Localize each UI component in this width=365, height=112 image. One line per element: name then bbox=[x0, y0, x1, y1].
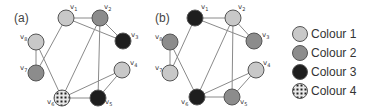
vertex-label-v7: v7 bbox=[20, 64, 27, 73]
graph-a: (a)v1v2v3v4v5v6v7v8 bbox=[14, 3, 138, 107]
vertex-label-v6: v6 bbox=[181, 98, 188, 107]
vertex-v4 bbox=[248, 62, 264, 78]
vertex-label-v3: v3 bbox=[262, 31, 269, 40]
edge-v2-v6 bbox=[197, 18, 233, 97]
vertex-v6 bbox=[189, 89, 205, 105]
vertex-label-v7: v7 bbox=[155, 64, 162, 73]
vertex-v5 bbox=[224, 89, 240, 105]
vertex-label-v1: v1 bbox=[70, 3, 77, 12]
graph-colouring-diagram: (a)v1v2v3v4v5v6v7v8 (b)v1v2v3v4v5v6v7v8 … bbox=[0, 0, 365, 112]
vertex-label-v1: v1 bbox=[201, 3, 208, 12]
vertex-v2 bbox=[225, 10, 241, 26]
vertex-v5 bbox=[90, 90, 106, 106]
vertex-label-v2: v2 bbox=[104, 3, 111, 12]
vertex-v2 bbox=[92, 10, 108, 26]
legend-swatch-colour2 bbox=[293, 46, 308, 61]
legend-swatch-colour1 bbox=[293, 27, 308, 42]
vertex-label-v6: v6 bbox=[47, 98, 54, 107]
vertex-v7 bbox=[28, 65, 44, 81]
edge-v2-v5 bbox=[98, 18, 100, 98]
vertex-v1 bbox=[187, 10, 203, 26]
vertex-v7 bbox=[162, 65, 178, 81]
vertex-label-v4: v4 bbox=[130, 59, 137, 68]
legend-label-colour4: Colour 4 bbox=[311, 84, 357, 98]
vertex-label-v5: v5 bbox=[240, 98, 247, 107]
vertex-v8 bbox=[162, 34, 178, 50]
vertex-label-v5: v5 bbox=[105, 98, 112, 107]
graph-b: (b)v1v2v3v4v5v6v7v8 bbox=[155, 3, 270, 107]
edge-v2-v6 bbox=[62, 18, 100, 98]
vertex-label-v4: v4 bbox=[263, 59, 270, 68]
vertex-label-v8: v8 bbox=[20, 33, 27, 42]
legend-label-colour3: Colour 3 bbox=[311, 65, 357, 79]
vertex-label-v3: v3 bbox=[131, 31, 138, 40]
panel-label: (b) bbox=[155, 11, 170, 25]
vertex-v4 bbox=[114, 62, 130, 78]
edge-v2-v5 bbox=[232, 18, 233, 97]
legend: Colour 1Colour 2Colour 3Colour 4 bbox=[293, 27, 357, 99]
vertex-v3 bbox=[246, 33, 262, 49]
vertex-v6 bbox=[54, 90, 70, 106]
panel-label: (a) bbox=[14, 11, 29, 25]
legend-swatch-colour3 bbox=[293, 65, 308, 80]
vertex-v8 bbox=[28, 34, 44, 50]
vertex-v1 bbox=[58, 10, 74, 26]
vertex-v3 bbox=[115, 33, 131, 49]
legend-label-colour2: Colour 2 bbox=[311, 46, 357, 60]
vertex-label-v2: v2 bbox=[238, 3, 245, 12]
vertex-label-v8: v8 bbox=[155, 33, 162, 42]
legend-label-colour1: Colour 1 bbox=[311, 27, 357, 41]
legend-swatch-colour4 bbox=[293, 84, 308, 99]
